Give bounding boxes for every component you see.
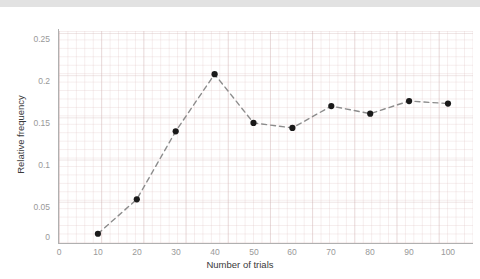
x-tick-label-40: 40 [200, 247, 230, 257]
grid-major [59, 31, 473, 243]
chart-card: 0.25 0.2 0.15 0.1 0.05 0 0 10 20 30 40 5… [0, 7, 480, 279]
x-tick-label-10: 10 [83, 247, 113, 257]
x-axis-title: Number of trials [0, 259, 480, 270]
y-tick-label-025: 0.25 [16, 34, 50, 44]
y-axis-line [58, 29, 59, 244]
x-tick-label-20: 20 [122, 247, 152, 257]
x-tick-label-90: 90 [394, 247, 424, 257]
plot-area [59, 31, 473, 243]
top-band [0, 0, 480, 7]
x-tick-label-60: 60 [277, 247, 307, 257]
y-axis-title: Relative frequency [15, 65, 26, 205]
y-tick-label-0: 0 [16, 232, 50, 242]
x-tick-label-0: 0 [44, 247, 74, 257]
chart-page: 0.25 0.2 0.15 0.1 0.05 0 0 10 20 30 40 5… [0, 0, 480, 279]
x-tick-label-50: 50 [239, 247, 269, 257]
x-tick-label-70: 70 [316, 247, 346, 257]
x-tick-label-30: 30 [161, 247, 191, 257]
x-tick-label-100: 100 [433, 247, 463, 257]
x-axis-line [58, 243, 473, 244]
x-tick-label-80: 80 [355, 247, 385, 257]
